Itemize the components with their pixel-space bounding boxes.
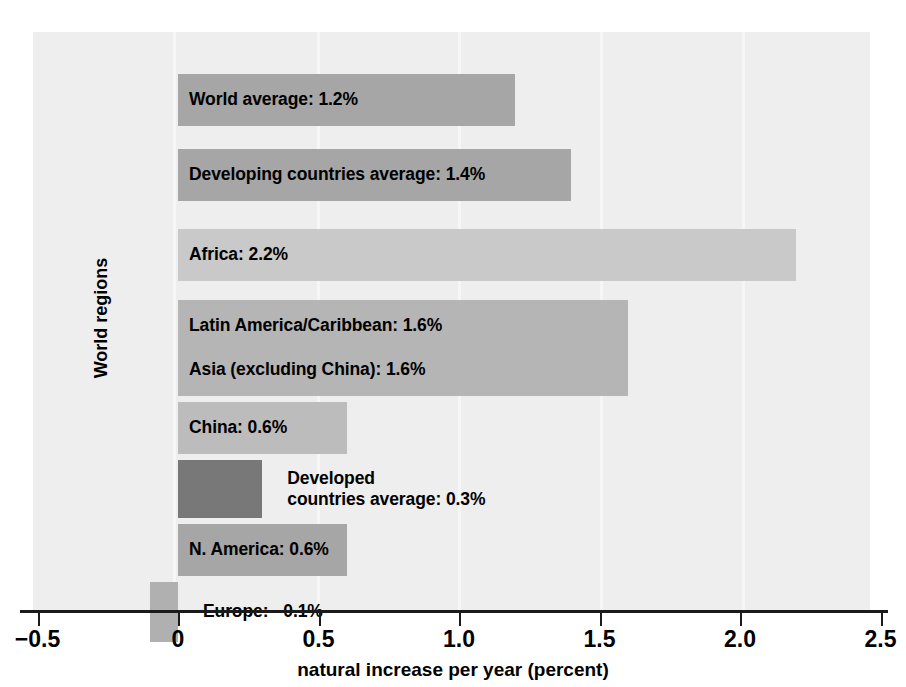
bar-row: Africa: 2.2% — [33, 229, 870, 281]
x-axis-tick — [178, 613, 180, 626]
bar-row: World average: 1.2% — [33, 74, 870, 126]
bar-label: N. America: 0.6% — [189, 539, 329, 560]
bar-label: World average: 1.2% — [189, 89, 358, 110]
bar-row: Developedcountries average: 0.3% — [33, 460, 870, 518]
x-axis-title: natural increase per year (percent) — [0, 659, 906, 681]
bar-label: Asia (excluding China): 1.6% — [189, 359, 425, 380]
x-axis-tick — [459, 613, 461, 626]
x-axis-tick-label: 2.0 — [724, 626, 756, 653]
bar-row: N. America: 0.6% — [33, 524, 870, 576]
x-axis-tick — [319, 613, 321, 626]
x-axis-tick-label: 0 — [172, 626, 185, 653]
plot-area: World average: 1.2%Developing countries … — [33, 32, 870, 610]
y-axis-title: World regions — [91, 258, 112, 379]
bar-chart-figure: World average: 1.2%Developing countries … — [0, 0, 906, 687]
x-axis-tick — [881, 613, 883, 626]
x-axis-tick-label: 1.5 — [584, 626, 616, 653]
bar-label: Developing countries average: 1.4% — [189, 164, 485, 185]
bar[interactable] — [178, 460, 262, 518]
x-axis-tick — [740, 613, 742, 626]
x-axis-tick-label: 1.0 — [443, 626, 475, 653]
x-axis-tick-label: 0.5 — [303, 626, 335, 653]
bar-row: Asia (excluding China): 1.6% — [33, 344, 870, 396]
bar-label: Africa: 2.2% — [189, 244, 288, 265]
x-axis-tick — [600, 613, 602, 626]
bar-label: Latin America/Caribbean: 1.6% — [189, 315, 442, 336]
bar-label: China: 0.6% — [189, 417, 287, 438]
bar-row: Developing countries average: 1.4% — [33, 149, 870, 201]
bar-row: China: 0.6% — [33, 402, 870, 454]
x-axis-tick-label: 2.5 — [865, 626, 897, 653]
x-axis-tick-label: −0.5 — [15, 626, 60, 653]
x-axis-line — [20, 610, 888, 613]
x-axis-tick — [38, 613, 40, 626]
bar-label: Developedcountries average: 0.3% — [287, 468, 485, 510]
